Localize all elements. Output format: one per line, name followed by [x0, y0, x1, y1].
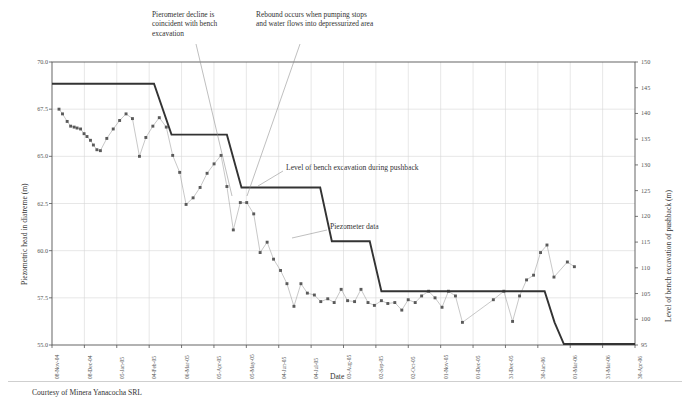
- chart-figure: Pierometer decline is coincident with be…: [0, 0, 690, 411]
- x-axis-tick: 31-Dec-05: [508, 355, 514, 379]
- y-axis-right-tick: 105: [641, 290, 650, 297]
- x-axis-tick: 04-Feb-05: [151, 356, 157, 379]
- x-axis-tick: 05-Jan-05: [119, 357, 125, 379]
- y-axis-right-tick: 120: [641, 212, 650, 219]
- footer-divider: [8, 381, 682, 382]
- y-axis-left-tick: 55.0: [18, 341, 48, 348]
- y-axis-right-tick: 140: [641, 109, 650, 116]
- y-axis-right-tick: 110: [641, 264, 650, 271]
- y-axis-left-tick: 57.5: [18, 294, 48, 301]
- y-axis-left-tick: 67.5: [18, 105, 48, 112]
- y-axis-left-tick: 62.5: [18, 200, 48, 207]
- y-axis-left-tick: 65.0: [18, 152, 48, 159]
- y-axis-right-tick: 130: [641, 161, 650, 168]
- x-axis-tick: 08-Nov-04: [54, 355, 60, 379]
- x-axis-tick: 04-Jul-05: [313, 358, 319, 379]
- y-axis-right-tick: 100: [641, 315, 650, 322]
- y-axis-right-tick: 135: [641, 135, 650, 142]
- x-axis-tick: 01-Mar-06: [572, 355, 578, 379]
- credit-line: Courtesy of Minera Yanacocha SRL: [32, 388, 142, 397]
- x-axis-tick: 30-Jan-06: [540, 357, 546, 379]
- x-axis-tick: 05-Apr-05: [216, 356, 222, 379]
- x-axis-tick: 02-Oct-05: [410, 356, 416, 379]
- x-axis-tick: 06-Mar-05: [184, 355, 190, 379]
- y-axis-right-tick: 95: [641, 341, 647, 348]
- x-axis-tick: 01-Nov-05: [443, 355, 449, 379]
- y-axis-left-tick: 70.0: [18, 58, 48, 65]
- x-axis-tick: 08-Dec-04: [87, 355, 93, 379]
- x-axis-tick: 02-Sep-05: [378, 356, 384, 379]
- y-axis-right-tick: 150: [641, 58, 650, 65]
- x-axis-tick: 04-Jun-05: [281, 357, 287, 379]
- y-axis-left-tick: 60.0: [18, 247, 48, 254]
- y-axis-right-tick: 145: [641, 84, 650, 91]
- x-axis-tick: 01-Dec-05: [475, 355, 481, 379]
- x-axis-tick: 05-May-05: [249, 354, 255, 379]
- y-axis-right-tick: 125: [641, 187, 650, 194]
- plot-area: [0, 0, 690, 411]
- y-axis-right-tick: 115: [641, 238, 650, 245]
- x-axis-tick: 31-Mar-06: [605, 355, 611, 379]
- x-axis-tick: 30-Apr-06: [637, 356, 643, 379]
- x-axis-tick: 03-Aug-05: [346, 355, 352, 379]
